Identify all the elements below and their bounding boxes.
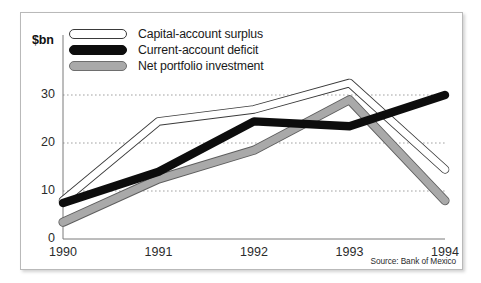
- x-tick-label-1992: 1992: [231, 245, 277, 259]
- x-tick-label-1991: 1991: [136, 245, 182, 259]
- x-tick-label-1990: 1990: [40, 245, 86, 259]
- chart-figure-frame: $bn Capital-account surplus Current-acco…: [20, 12, 463, 270]
- y-tick-label-20: 20: [29, 135, 55, 149]
- y-tick-label-0: 0: [29, 231, 55, 245]
- source-note: Source: Bank of Mexico: [371, 256, 456, 266]
- plot-region: 0102030 19901991199219931994: [21, 13, 464, 271]
- y-tick-label-30: 30: [29, 87, 55, 101]
- x-tick-label-1993: 1993: [327, 245, 373, 259]
- series-lines: [63, 83, 445, 222]
- line-chart-svg: [21, 13, 464, 271]
- chart-area: $bn Capital-account surplus Current-acco…: [21, 13, 464, 271]
- y-tick-label-10: 10: [29, 183, 55, 197]
